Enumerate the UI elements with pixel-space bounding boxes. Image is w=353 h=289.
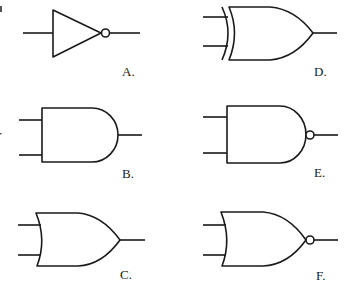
inversion-bubble-icon xyxy=(102,29,110,37)
gate-f-nor: F. xyxy=(203,212,338,283)
gate-e-nand: E. xyxy=(203,106,338,180)
logic-gates-diagram: A. B. C. D. E. xyxy=(0,0,353,289)
scan-mark xyxy=(0,6,2,12)
and-gate-icon xyxy=(42,108,118,162)
gate-c-or: C. xyxy=(18,213,145,282)
gate-label-b: B. xyxy=(122,166,134,181)
not-gate-icon xyxy=(53,10,101,57)
gate-b-and: B. xyxy=(19,108,142,181)
nor-gate-icon xyxy=(221,212,306,266)
scan-mark xyxy=(0,133,2,135)
gate-label-e: E. xyxy=(314,165,325,180)
gate-label-d: D. xyxy=(314,64,327,79)
xor-extra-curve-icon xyxy=(222,7,228,60)
gate-label-f: F. xyxy=(316,268,325,283)
gate-label-a: A. xyxy=(122,64,135,79)
gate-d-xor: D. xyxy=(203,7,337,79)
inversion-bubble-icon xyxy=(306,131,314,139)
or-gate-icon xyxy=(36,213,120,266)
gate-label-c: C. xyxy=(120,267,132,282)
inversion-bubble-icon xyxy=(306,236,314,244)
nand-gate-icon xyxy=(227,106,306,163)
xor-gate-icon xyxy=(229,7,313,60)
gate-a-not: A. xyxy=(23,10,140,79)
